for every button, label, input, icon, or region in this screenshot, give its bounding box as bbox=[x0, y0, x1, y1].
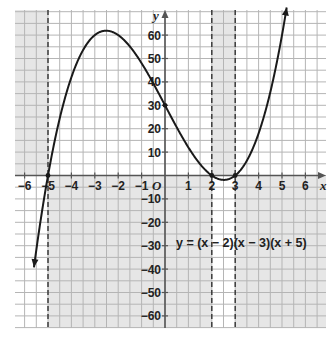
y-tick-label: −60 bbox=[141, 309, 162, 323]
y-tick-label: 60 bbox=[148, 29, 162, 43]
x-tick-label: −3 bbox=[88, 179, 102, 193]
x-axis-label: x bbox=[319, 178, 327, 193]
y-tick-label: 50 bbox=[148, 52, 162, 66]
y-tick-label: −10 bbox=[141, 192, 162, 206]
x-tick-label: 4 bbox=[255, 179, 262, 193]
point-marker bbox=[46, 173, 51, 178]
y-tick-label: −20 bbox=[141, 216, 162, 230]
y-tick-label: −40 bbox=[141, 263, 162, 277]
point-marker bbox=[209, 173, 214, 178]
x-tick-label: −6 bbox=[18, 179, 32, 193]
point-marker bbox=[233, 173, 238, 178]
graph: −6−5−4−3−2−1123456605040302010−10−20−30−… bbox=[0, 0, 336, 340]
y-tick-label: 30 bbox=[148, 99, 162, 113]
y-tick-label: 10 bbox=[148, 146, 162, 160]
x-tick-label: −4 bbox=[65, 179, 79, 193]
x-tick-label: 5 bbox=[279, 179, 286, 193]
y-axis-label: y bbox=[151, 8, 159, 23]
shaded-region bbox=[235, 176, 326, 329]
x-tick-label: 2 bbox=[208, 179, 215, 193]
y-tick-label: −50 bbox=[141, 286, 162, 300]
origin-label: O bbox=[152, 178, 162, 193]
x-tick-label: 1 bbox=[185, 179, 192, 193]
equation-label: y = (x − 2)(x − 3)(x + 5) bbox=[176, 236, 307, 250]
x-tick-label: −1 bbox=[135, 179, 149, 193]
x-tick-label: −5 bbox=[41, 179, 55, 193]
y-tick-label: 20 bbox=[148, 122, 162, 136]
grid bbox=[15, 10, 326, 328]
x-tick-label: −2 bbox=[111, 179, 125, 193]
x-tick-label: 3 bbox=[232, 179, 239, 193]
y-tick-label: −30 bbox=[141, 239, 162, 253]
x-tick-label: 6 bbox=[302, 179, 309, 193]
point-marker bbox=[163, 103, 168, 108]
